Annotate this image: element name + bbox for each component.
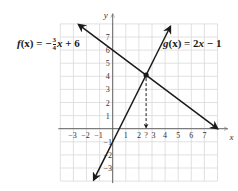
svg-text:−2: −2 <box>81 131 90 140</box>
svg-text:3: 3 <box>152 131 156 140</box>
svg-text:5: 5 <box>106 59 110 68</box>
svg-text:5: 5 <box>176 131 180 140</box>
svg-text:7: 7 <box>202 131 206 140</box>
svg-text:?: ? <box>144 131 148 140</box>
svg-text:3: 3 <box>106 85 110 94</box>
svg-text:1: 1 <box>106 112 110 121</box>
svg-text:1: 1 <box>124 131 128 140</box>
svg-text:−3: −3 <box>103 164 112 173</box>
g-function-label: g(x) = 2x − 1 <box>163 37 221 49</box>
svg-text:2: 2 <box>106 99 110 108</box>
svg-text:6: 6 <box>189 131 193 140</box>
svg-text:−3: −3 <box>68 131 77 140</box>
tick-labels: −3−2−11245673?−3−2−11234567 <box>68 33 206 173</box>
svg-text:y: y <box>103 10 108 20</box>
svg-text:−1: −1 <box>94 131 103 140</box>
svg-text:x: x <box>229 132 234 142</box>
svg-text:2: 2 <box>137 131 141 140</box>
svg-text:4: 4 <box>163 131 167 140</box>
coordinate-graph: xy −3−2−11245673?−3−2−11234567 <box>0 0 238 191</box>
svg-text:4: 4 <box>106 72 110 81</box>
svg-text:7: 7 <box>106 33 110 42</box>
fraction-three-quarters: 34 <box>53 37 57 52</box>
f-function-label: f(x) = −34x + 6 <box>17 37 80 52</box>
axes: xy <box>58 10 233 183</box>
